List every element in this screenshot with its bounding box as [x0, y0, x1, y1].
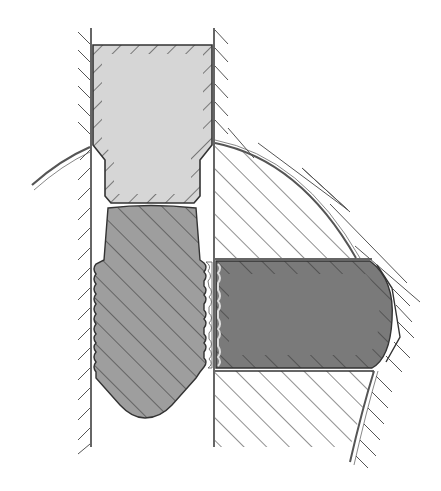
section-drawing: Cross-section of threaded plug and locki…	[0, 0, 441, 491]
locking-block	[216, 261, 392, 368]
housing-lower	[215, 371, 378, 465]
threaded-plug	[94, 206, 206, 419]
bore-wall-left	[78, 28, 91, 454]
left-housing-arc	[32, 147, 90, 190]
cap	[93, 45, 212, 203]
housing-upper	[215, 140, 372, 259]
thread-gap	[206, 262, 212, 368]
